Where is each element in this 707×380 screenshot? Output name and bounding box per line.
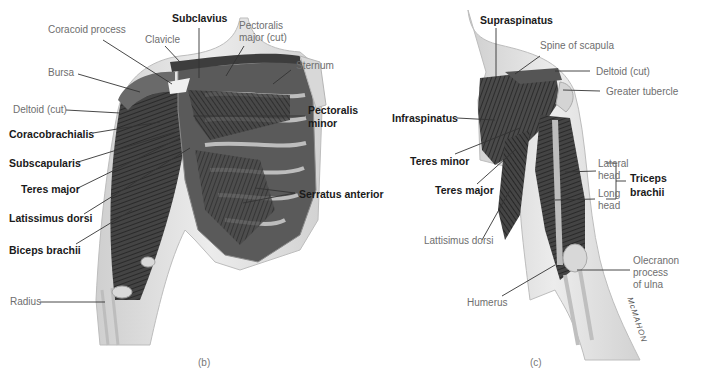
label-pectoralis-major-cut-line2: major (cut) — [239, 32, 287, 44]
label-pectoralis-minor-line2: minor — [308, 117, 337, 129]
anatomy-figure: Coracoid process Clavicle Subclavius Pec… — [0, 0, 707, 380]
label-triceps-brachii-line2: brachii — [630, 186, 664, 198]
label-latissimus-dorsi-b: Latissimus dorsi — [9, 212, 92, 224]
label-bursa: Bursa — [48, 67, 74, 79]
label-infraspinatus: Infraspinatus — [392, 112, 458, 124]
figure-b-art — [40, 18, 326, 345]
label-olecranon-line3: of ulna — [633, 279, 663, 291]
label-olecranon-line2: process — [633, 267, 668, 279]
label-clavicle: Clavicle — [145, 34, 180, 46]
panel-label-c: (c) — [530, 357, 542, 368]
label-lattisimus-dorsi-c: Lattisimus dorsi — [424, 235, 493, 247]
label-sternum: Sternum — [296, 60, 334, 72]
label-olecranon-line1: Olecranon — [633, 255, 679, 267]
panel-label-b: (b) — [198, 357, 210, 368]
label-teres-major-c: Teres major — [435, 184, 494, 196]
label-lateral-head-line2: head — [598, 170, 620, 182]
label-serratus-anterior: Serratus anterior — [299, 188, 384, 200]
label-pectoralis-minor-line1: Pectoralis — [308, 104, 358, 116]
label-long-head-line2: head — [598, 200, 620, 212]
label-radius: Radius — [10, 296, 41, 308]
label-deltoid-cut-b: Deltoid (cut) — [13, 104, 67, 116]
label-coracoid-process: Coracoid process — [48, 24, 126, 36]
label-supraspinatus: Supraspinatus — [480, 14, 553, 26]
label-long-head-line1: Long — [598, 188, 620, 200]
label-pectoralis-major-cut-line1: Pectoralis — [239, 20, 283, 32]
label-humerus: Humerus — [467, 297, 508, 309]
label-subclavius: Subclavius — [172, 12, 227, 24]
label-teres-minor: Teres minor — [410, 155, 469, 167]
label-biceps-brachii: Biceps brachii — [9, 244, 81, 256]
label-spine-of-scapula: Spine of scapula — [540, 40, 614, 52]
label-greater-tubercle: Greater tubercle — [606, 86, 678, 98]
label-subscapularis: Subscapularis — [9, 157, 81, 169]
label-teres-major-b: Teres major — [21, 183, 80, 195]
label-lateral-head-line1: Lateral — [598, 158, 629, 170]
label-triceps-brachii-line1: Triceps — [630, 172, 667, 184]
label-coracobrachialis: Coracobrachialis — [9, 128, 94, 140]
label-deltoid-cut-c: Deltoid (cut) — [596, 66, 650, 78]
